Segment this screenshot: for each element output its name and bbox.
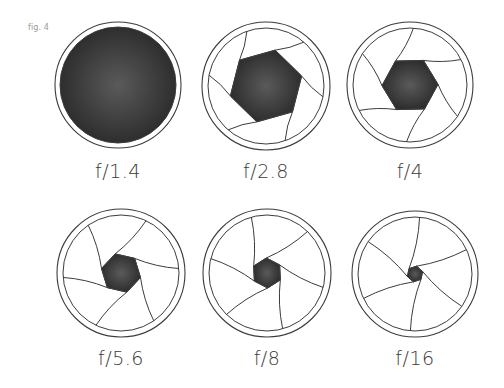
f-stop-label: f/5.6 xyxy=(61,347,181,369)
fully-open-aperture xyxy=(60,27,176,143)
aperture-f16 xyxy=(348,207,482,341)
figure-number-label: fig. 4 xyxy=(28,23,49,32)
aperture-iris-icon xyxy=(343,18,477,152)
aperture-f2-8 xyxy=(198,18,334,154)
aperture-iris-icon xyxy=(51,18,185,152)
f-stop-label: f/16 xyxy=(355,347,475,369)
aperture-iris-icon xyxy=(53,205,189,341)
aperture-f4 xyxy=(343,18,477,152)
aperture-f5-6 xyxy=(53,205,189,341)
aperture-f1-4 xyxy=(51,18,185,152)
f-stop-label: f/4 xyxy=(350,160,470,182)
f-stop-label: f/2.8 xyxy=(206,160,326,182)
aperture-iris-icon xyxy=(348,207,482,341)
f-stop-label: f/1.4 xyxy=(58,160,178,182)
f-stop-label: f/8 xyxy=(207,347,327,369)
aperture-iris-icon xyxy=(199,205,335,341)
aperture-f8 xyxy=(199,205,335,341)
aperture-iris-icon xyxy=(198,18,334,154)
